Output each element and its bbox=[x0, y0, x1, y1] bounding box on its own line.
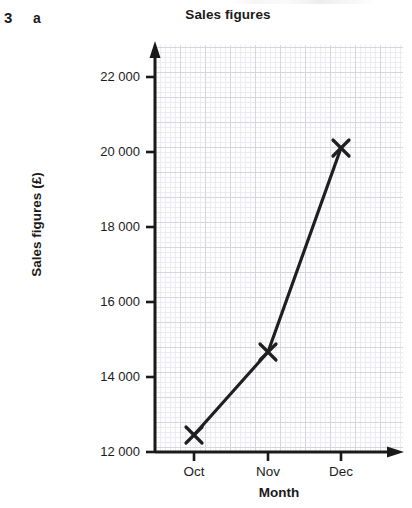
x-axis-tick-labels: Oct Nov Dec bbox=[0, 0, 412, 508]
x-tick-label: Dec bbox=[311, 464, 371, 479]
y-axis-title: Sales figures (£) bbox=[29, 145, 44, 305]
x-axis-title: Month bbox=[155, 485, 403, 500]
x-tick-label: Nov bbox=[238, 464, 298, 479]
x-tick-label: Oct bbox=[164, 464, 224, 479]
